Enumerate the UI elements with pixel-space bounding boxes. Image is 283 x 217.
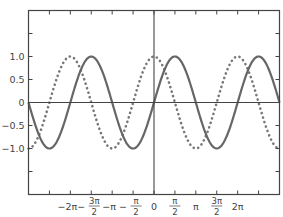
sine-cosine-chart: −2π−3π2−π−π20π2π3π22π 1.00.50−0.5−1.0	[0, 0, 283, 217]
svg-text:2: 2	[172, 207, 177, 217]
svg-text:−: −	[77, 201, 85, 212]
svg-text:3π: 3π	[211, 196, 222, 206]
x-tick-label: 2π	[232, 201, 244, 212]
x-tick-label: −π	[102, 201, 116, 212]
x-tick-label: −3π2	[77, 196, 99, 217]
x-tick-label: 3π2	[211, 196, 222, 217]
y-tick-label: 0.5	[9, 74, 24, 85]
svg-text:3π: 3π	[89, 196, 100, 206]
svg-text:2: 2	[214, 207, 219, 217]
x-tick-label: π	[193, 201, 199, 212]
axes	[29, 11, 280, 195]
x-tick-label: −2π	[57, 201, 77, 212]
svg-text:−: −	[119, 201, 127, 212]
x-tick-label: π2	[169, 196, 180, 217]
svg-text:2: 2	[133, 207, 138, 217]
svg-text:2: 2	[92, 207, 97, 217]
y-tick-label: 1.0	[9, 51, 24, 62]
svg-text:π: π	[172, 196, 177, 206]
svg-text:π: π	[134, 196, 139, 206]
x-tick-label: 0	[151, 201, 157, 212]
y-tick-label: −0.5	[1, 120, 24, 131]
y-tick-label: −1.0	[1, 143, 24, 154]
x-tick-label: −π2	[119, 196, 141, 217]
y-tick-label: 0	[18, 97, 24, 108]
